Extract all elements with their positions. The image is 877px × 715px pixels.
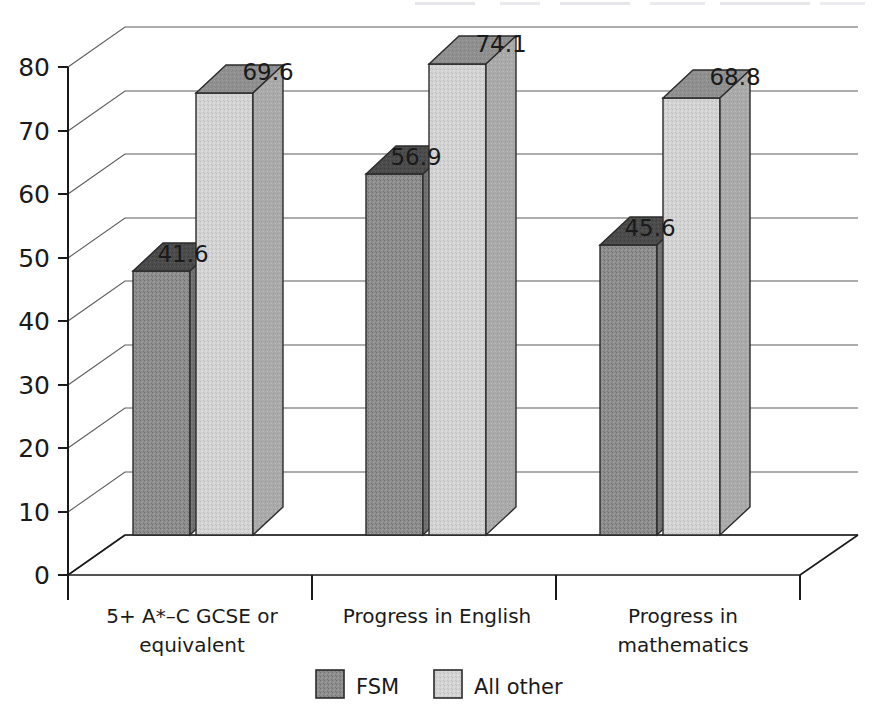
bar-fsm-0-front: [133, 271, 190, 535]
bar-allother-1[interactable]: [429, 36, 516, 535]
legend-item-all-other[interactable]: All other: [434, 670, 563, 699]
bar-fsm-1-front: [366, 174, 423, 535]
category-label-0-line1: 5+ A*–C GCSE or: [106, 604, 278, 628]
chart-svg: 0 10 20 30 40 50 60 70 80: [0, 0, 877, 715]
bar-allother-2-front: [663, 98, 720, 535]
legend-item-fsm[interactable]: FSM: [316, 670, 399, 699]
y-tick-label-30: 30: [18, 371, 50, 400]
value-label-allother-1: 74.1: [475, 31, 526, 57]
value-label-allother-2: 68.8: [709, 64, 760, 90]
y-tick-label-20: 20: [18, 434, 50, 463]
legend-swatch-all-other: [434, 670, 462, 698]
bar-allother-0-side: [253, 65, 283, 535]
bar-chart-figure: 0 10 20 30 40 50 60 70 80: [0, 0, 877, 715]
legend-label-fsm: FSM: [356, 675, 399, 699]
y-tick-label-60: 60: [18, 180, 50, 209]
y-tick-label-70: 70: [18, 117, 50, 146]
y-tick-label-50: 50: [18, 244, 50, 273]
y-tick-label-0: 0: [34, 561, 50, 590]
bar-fsm-2-front: [600, 245, 657, 535]
bar-allother-2-side: [720, 70, 750, 535]
bar-allother-2[interactable]: [663, 70, 750, 535]
bar-allother-1-side: [486, 36, 516, 535]
legend-label-all-other: All other: [474, 675, 563, 699]
y-tick-label-10: 10: [18, 498, 50, 527]
legend-swatch-fsm: [316, 670, 344, 698]
value-label-allother-0: 69.6: [242, 59, 293, 85]
y-tick-label-80: 80: [18, 53, 50, 82]
value-label-fsm-1: 56.9: [390, 144, 441, 170]
category-label-0-line2: equivalent: [139, 633, 245, 657]
bar-allother-1-front: [429, 64, 486, 535]
bar-allother-0[interactable]: [196, 65, 283, 535]
category-label-2-line2: mathematics: [617, 633, 748, 657]
bar-allother-0-front: [196, 93, 253, 535]
value-label-fsm-2: 45.6: [624, 215, 675, 241]
value-label-fsm-0: 41.6: [157, 241, 208, 267]
category-label-2-line1: Progress in: [628, 604, 738, 628]
category-label-1-line1: Progress in English: [343, 604, 532, 628]
y-tick-label-40: 40: [18, 307, 50, 336]
